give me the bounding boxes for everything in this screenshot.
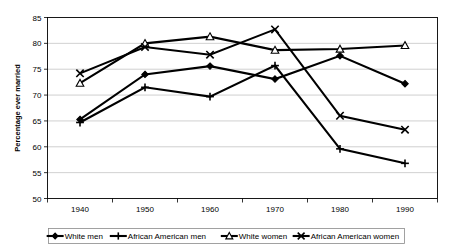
legend-label-1: White men — [65, 232, 103, 241]
series-line-2 — [80, 66, 405, 164]
x-tick-label: 1940 — [71, 205, 89, 214]
series-line-1 — [80, 56, 405, 120]
x-tick-label: 1990 — [396, 205, 414, 214]
marker-diamond — [207, 63, 213, 69]
y-tick-label: 80 — [33, 39, 42, 48]
legend-label-2: African American men — [128, 232, 206, 241]
chart-container: 5055606570758085194019501960197019801990… — [0, 0, 453, 250]
y-axis-title: Percentage ever married — [13, 64, 22, 152]
series-group — [76, 26, 409, 168]
marker-plus — [401, 159, 409, 167]
x-axis: 194019501960197019801990 — [48, 199, 438, 215]
marker-diamond — [337, 53, 343, 59]
series-line-4 — [80, 29, 405, 129]
series-1 — [77, 53, 408, 123]
line-chart: 5055606570758085194019501960197019801990… — [0, 0, 453, 250]
y-tick-label: 55 — [33, 169, 42, 178]
x-tick-label: 1970 — [266, 205, 284, 214]
x-tick-label: 1960 — [201, 205, 219, 214]
marker-plus — [141, 83, 149, 91]
legend-label-4: African American women — [311, 232, 399, 241]
series-3 — [76, 33, 409, 86]
marker-diamond — [272, 76, 278, 82]
legend-label-3: White women — [239, 232, 287, 241]
marker-plus — [206, 93, 214, 101]
y-tick-label: 85 — [33, 14, 42, 23]
y-tick-label: 65 — [33, 117, 42, 126]
series-2 — [76, 62, 409, 168]
y-tick-label: 75 — [33, 65, 42, 74]
marker-diamond — [402, 80, 408, 86]
x-tick-label: 1980 — [331, 205, 349, 214]
y-tick-label: 70 — [33, 91, 42, 100]
x-tick-label: 1950 — [136, 205, 154, 214]
y-tick-label: 50 — [33, 195, 42, 204]
y-tick-label: 60 — [33, 143, 42, 152]
legend: White menAfrican American menWhite women… — [47, 229, 405, 244]
series-4 — [76, 26, 408, 134]
